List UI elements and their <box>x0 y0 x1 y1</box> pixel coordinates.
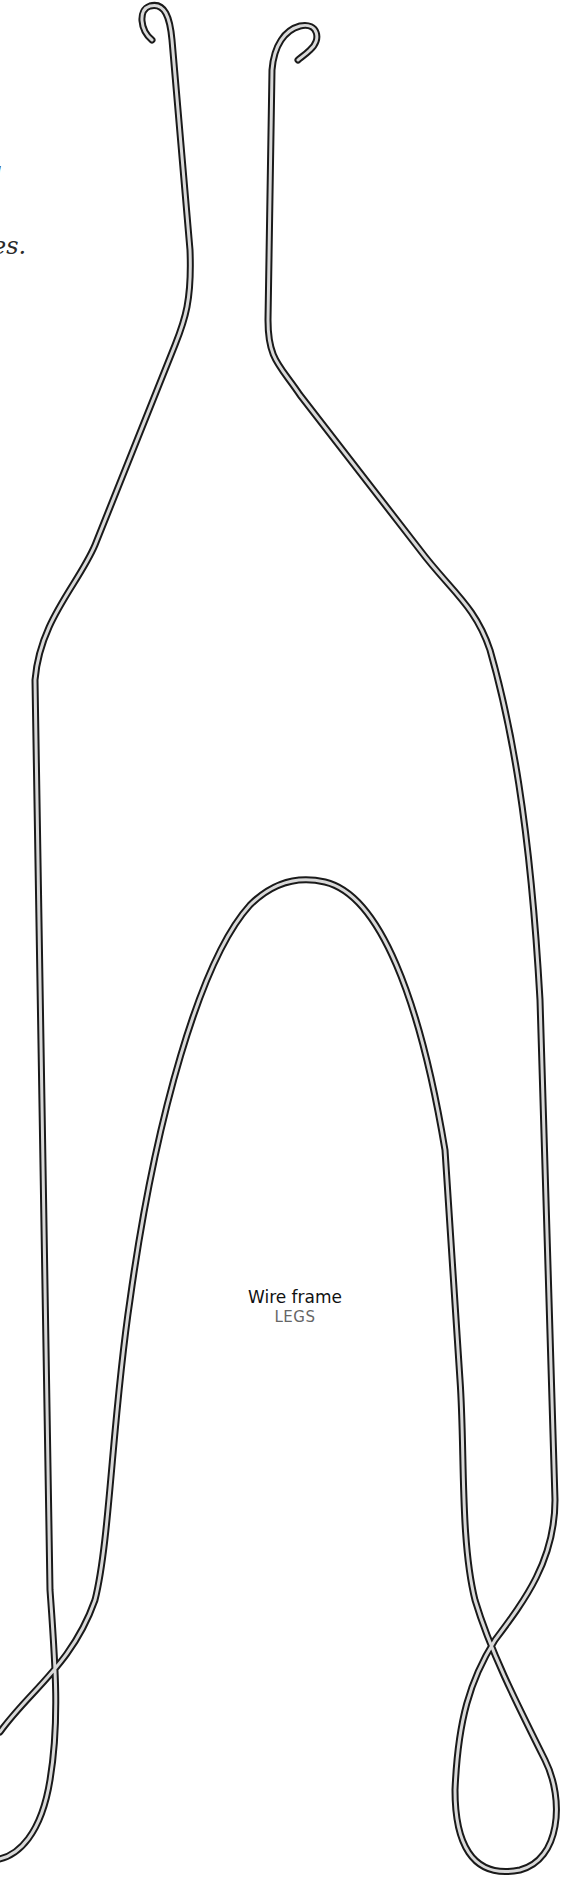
wire-frame-legs-illustration <box>0 0 583 1886</box>
part-category-label: LEGS <box>220 1308 370 1326</box>
wire-path-group <box>0 5 556 1871</box>
part-name-label: Wire frame <box>220 1287 370 1307</box>
